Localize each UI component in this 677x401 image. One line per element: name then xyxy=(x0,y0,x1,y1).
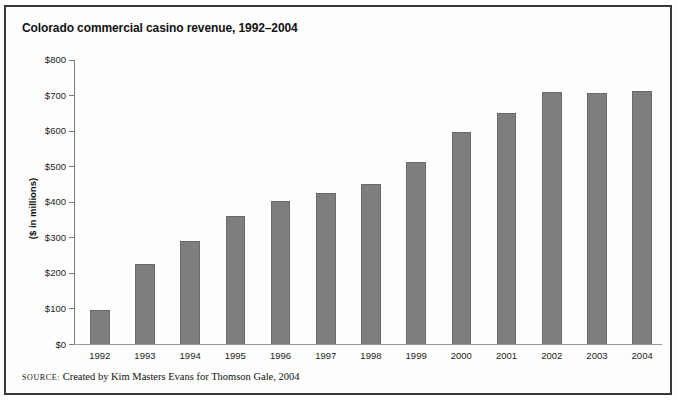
y-tick-label: $400 xyxy=(28,196,66,207)
y-tick-label: $600 xyxy=(28,125,66,136)
bar-1992 xyxy=(90,310,110,344)
page: FIGURE Colorado commercial casino revenu… xyxy=(0,0,677,401)
x-tick-label: 1996 xyxy=(261,350,301,361)
x-tick-label: 2004 xyxy=(622,350,662,361)
chart-frame: Colorado commercial casino revenue, 1992… xyxy=(4,5,672,395)
x-tick-label: 1994 xyxy=(170,350,210,361)
y-tick xyxy=(69,60,74,61)
y-tick xyxy=(69,308,74,309)
y-tick-label: $0 xyxy=(28,339,66,350)
x-tick-label: 1992 xyxy=(80,350,120,361)
y-tick-label: $200 xyxy=(28,267,66,278)
source-label: SOURCE: xyxy=(22,373,60,382)
bar-2002 xyxy=(542,92,562,344)
y-tick xyxy=(69,95,74,96)
x-tick-label: 1995 xyxy=(215,350,255,361)
y-tick-label: $100 xyxy=(28,303,66,314)
x-tick-label: 1999 xyxy=(396,350,436,361)
x-axis-line xyxy=(74,344,662,345)
bar-1995 xyxy=(226,216,246,344)
y-tick xyxy=(69,202,74,203)
x-tick-label: 1998 xyxy=(351,350,391,361)
x-tick-label: 2003 xyxy=(577,350,617,361)
y-tick-label: $300 xyxy=(28,232,66,243)
bar-2000 xyxy=(452,132,472,344)
x-tick-label: 2002 xyxy=(532,350,572,361)
x-tick-label: 2001 xyxy=(487,350,527,361)
figure-label-text: FIGURE xyxy=(7,0,127,2)
y-tick xyxy=(69,131,74,132)
y-axis-line xyxy=(74,60,75,345)
bar-1999 xyxy=(406,162,426,344)
plot-area: $0$100$200$300$400$500$600$700$800199219… xyxy=(6,7,670,393)
y-tick xyxy=(69,166,74,167)
bar-2003 xyxy=(587,93,607,344)
x-tick-label: 2000 xyxy=(441,350,481,361)
y-tick xyxy=(69,237,74,238)
bar-2001 xyxy=(497,113,517,344)
bar-2004 xyxy=(632,91,652,344)
bar-1998 xyxy=(361,184,381,344)
x-tick-label: 1993 xyxy=(125,350,165,361)
bar-1996 xyxy=(271,201,291,344)
bar-1993 xyxy=(135,264,155,344)
y-tick-label: $500 xyxy=(28,161,66,172)
y-tick-label: $800 xyxy=(28,54,66,65)
source-note: SOURCE: Created by Kim Masters Evans for… xyxy=(22,371,300,382)
x-tick-label: 1997 xyxy=(306,350,346,361)
bar-1994 xyxy=(180,241,200,344)
source-text: Created by Kim Masters Evans for Thomson… xyxy=(60,371,300,382)
figure-label: FIGURE xyxy=(7,0,127,3)
bar-1997 xyxy=(316,193,336,344)
y-tick xyxy=(69,273,74,274)
y-tick-label: $700 xyxy=(28,90,66,101)
